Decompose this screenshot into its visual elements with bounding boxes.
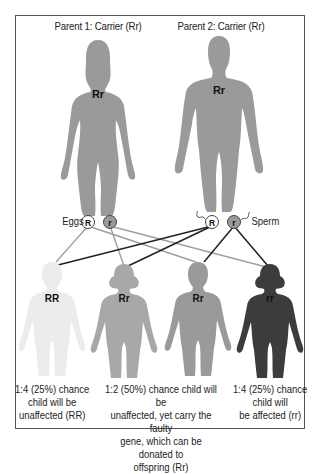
svg-text:Rr: Rr	[118, 293, 129, 304]
sperm-label: Sperm	[250, 215, 281, 227]
maternal-lines	[56, 226, 270, 268]
child-rr: rr	[237, 264, 304, 378]
child-RR: RR	[19, 262, 86, 376]
parent-1-figure: Rr	[61, 40, 135, 216]
eggs-label: Eggs	[61, 215, 85, 227]
sperm-r: r	[228, 212, 251, 229]
parent-2-genotype: Rr	[213, 84, 226, 96]
svg-text:Rr: Rr	[192, 293, 203, 304]
paternal-lines	[58, 226, 268, 266]
svg-text:R: R	[85, 218, 91, 228]
caption-rr-unaffected: 1:4 (25%) chance child will be unaffecte…	[7, 383, 97, 422]
parent-2-figure: Rr	[175, 36, 263, 212]
svg-text:rr: rr	[266, 293, 274, 304]
sperm-R: R	[197, 211, 219, 229]
child-Rr-boy: Rr	[165, 262, 232, 376]
parent-1-genotype: Rr	[92, 88, 105, 100]
caption-rr-affected: 1:4 (25%) chance child will be affected …	[225, 383, 315, 422]
caption-rr-carrier: 1:2 (50%) chance child will be unaffecte…	[96, 383, 226, 474]
svg-text:RR: RR	[45, 293, 60, 304]
egg-r: r	[104, 216, 117, 229]
svg-text:R: R	[209, 218, 215, 228]
child-Rr-girl: Rr	[91, 264, 158, 378]
